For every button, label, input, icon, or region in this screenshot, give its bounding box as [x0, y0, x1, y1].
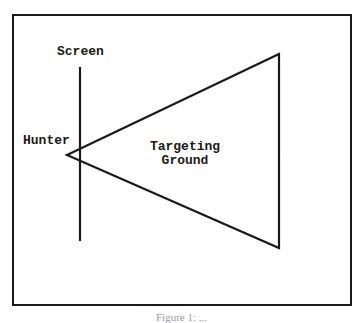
- hunter-label: Hunter: [23, 134, 70, 148]
- targeting-ground-label-line2: Ground: [140, 154, 230, 168]
- targeting-ground-label: Targeting Ground: [140, 140, 230, 168]
- figure-caption: Figure 1: ...: [0, 311, 363, 323]
- screen-label: Screen: [57, 45, 104, 59]
- targeting-ground-label-line1: Targeting: [140, 140, 230, 154]
